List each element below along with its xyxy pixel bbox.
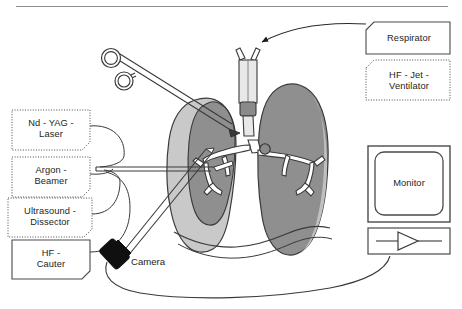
argon-beamer-box[interactable]: Argon - Beamer — [12, 157, 90, 195]
hf-jet-ventilator-box[interactable]: HF - Jet - Ventilator — [368, 62, 450, 99]
nd-yag-laser-box[interactable]: Nd - YAG - Laser — [12, 110, 90, 148]
ultrasound-dissector-box[interactable]: Ultrasound - Dissector — [8, 198, 92, 235]
video-processor-device[interactable] — [368, 228, 450, 254]
figure-root: Nd - YAG - Laser Argon - Beamer Ultrasou… — [0, 0, 462, 309]
left-lung-outer — [258, 84, 328, 255]
camera-label: Camera — [131, 256, 165, 267]
respirator-box[interactable]: Respirator — [368, 24, 450, 53]
left-device-cables — [90, 126, 130, 252]
monitor-screen-label: Monitor — [375, 152, 443, 215]
respirator-arrow — [262, 24, 366, 42]
hf-cauter-box[interactable]: HF - Cauter — [12, 240, 90, 277]
